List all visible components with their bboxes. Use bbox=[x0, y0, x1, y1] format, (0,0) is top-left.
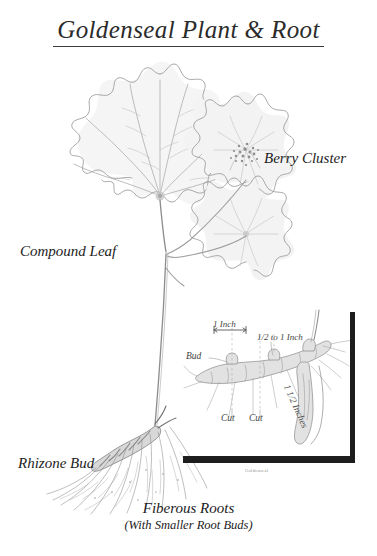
plant-drawing: .pl{fill:none;stroke:#9a9a9a;stroke-widt… bbox=[0, 0, 377, 556]
inset-label-bud: Bud bbox=[186, 351, 201, 361]
inset-label-one-and-half-inches: 1 1/2 Inches bbox=[282, 383, 310, 429]
illustration-sheet: .pl{fill:none;stroke:#9a9a9a;stroke-widt… bbox=[0, 0, 377, 556]
caption-subtext: (With Smaller Root Buds) bbox=[0, 518, 377, 534]
berry-cluster-stipple bbox=[230, 143, 259, 166]
inset-label-cut-right: Cut bbox=[249, 413, 263, 423]
compound-leaf-upper-left bbox=[70, 62, 238, 204]
caption-fiberous-roots: Fiberous Roots bbox=[0, 500, 377, 517]
compound-leaf-lower-right bbox=[190, 176, 294, 280]
leaf-with-berry-cluster bbox=[184, 92, 296, 198]
inset-credit-text: Goldenseal bbox=[245, 468, 268, 473]
inset-label-half-to-one-inch: 1/2 to 1 Inch bbox=[257, 332, 303, 342]
label-compound-leaf: Compound Leaf bbox=[20, 243, 116, 260]
label-rhizone-bud: Rhizone Bud bbox=[18, 455, 94, 472]
inset-frame-bottom-edge bbox=[183, 456, 355, 463]
inset-detail-panel: .ir{fill:#e2e2e2;stroke:#959595;stroke-w… bbox=[183, 308, 355, 463]
caption-block: Fiberous Roots (With Smaller Root Buds) bbox=[0, 500, 377, 534]
inset-frame-right-edge bbox=[350, 312, 355, 463]
title-block: Goldenseal Plant & Root bbox=[0, 16, 377, 47]
label-berry-cluster: Berry Cluster bbox=[264, 150, 346, 167]
page-title: Goldenseal Plant & Root bbox=[53, 16, 324, 47]
inset-label-one-inch: 1 Inch bbox=[213, 319, 236, 329]
inset-label-cut-left: Cut bbox=[221, 413, 235, 423]
